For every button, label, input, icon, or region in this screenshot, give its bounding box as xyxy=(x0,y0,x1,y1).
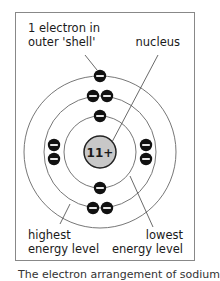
electron-icon xyxy=(101,202,113,214)
label-outer-electron-1: 1 electron in xyxy=(28,21,100,35)
figure-caption: The electron arrangement of sodium xyxy=(18,268,220,281)
nucleus-charge: 11+ xyxy=(87,146,114,160)
electron-icon xyxy=(94,70,106,82)
electron-icon xyxy=(48,153,60,165)
label-highest-2: energy level xyxy=(28,242,99,256)
electron-icon xyxy=(101,90,113,102)
electron-icon xyxy=(140,139,152,151)
nucleus: 11+ xyxy=(84,136,116,168)
label-nucleus: nucleus xyxy=(136,35,180,49)
electron-icon xyxy=(94,182,106,194)
label-highest-1: highest xyxy=(28,228,71,242)
electron-icon xyxy=(48,139,60,151)
label-lowest-2: energy level xyxy=(112,242,183,256)
label-outer-electron-2: outer 'shell' xyxy=(28,35,95,49)
electron-icon xyxy=(87,202,99,214)
electron-icon xyxy=(94,110,106,122)
label-lowest-1: lowest xyxy=(146,228,184,242)
electron-icon xyxy=(87,90,99,102)
electron-icon xyxy=(140,153,152,165)
